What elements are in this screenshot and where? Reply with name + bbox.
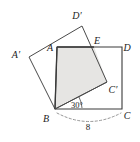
vertex-label-a: A	[46, 42, 54, 53]
vertex-label-b: B	[43, 113, 49, 124]
geometry-diagram-svg: A A′ B C C′ D D′ E 30° 8	[0, 0, 140, 142]
measure-arc-bc	[57, 113, 121, 122]
vertex-label-e: E	[93, 35, 100, 46]
side-length-label: 8	[86, 122, 91, 132]
vertex-label-a-prime: A′	[11, 49, 21, 60]
vertex-label-d-prime: D′	[71, 10, 82, 21]
vertex-label-d: D	[122, 42, 131, 53]
vertex-label-c: C	[124, 110, 131, 121]
angle-label-30-degrees: 30°	[71, 100, 83, 110]
vertex-label-c-prime: C′	[109, 84, 119, 95]
geometry-figure: A A′ B C C′ D D′ E 30° 8	[0, 0, 140, 142]
